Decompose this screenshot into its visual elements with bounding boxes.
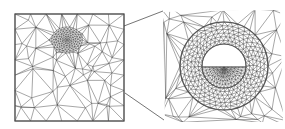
zoomed-inclusion-panel <box>160 7 285 126</box>
connector-line <box>125 93 164 120</box>
mesh-diagram <box>0 0 285 129</box>
zoom-connector-lines <box>124 11 164 120</box>
inner-circle <box>202 44 246 88</box>
outer-circle <box>180 22 268 110</box>
coarse-mesh-panel <box>15 14 124 121</box>
connector-line <box>124 11 163 26</box>
mesh-figure <box>0 0 285 129</box>
